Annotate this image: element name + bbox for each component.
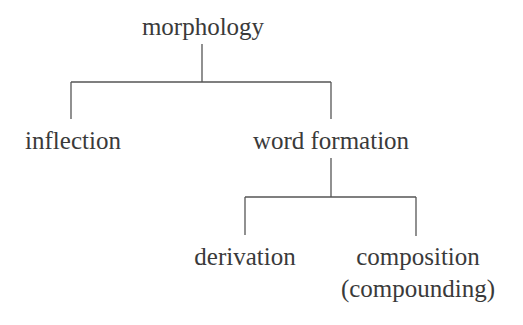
- node-morphology: morphology: [142, 13, 264, 41]
- morphology-tree-diagram: morphology inflection word formation der…: [0, 0, 523, 325]
- node-composition: composition: [356, 243, 480, 271]
- node-word-formation: word formation: [253, 127, 409, 155]
- node-compounding: (compounding): [341, 275, 495, 303]
- node-derivation: derivation: [194, 243, 295, 271]
- node-inflection: inflection: [25, 127, 121, 155]
